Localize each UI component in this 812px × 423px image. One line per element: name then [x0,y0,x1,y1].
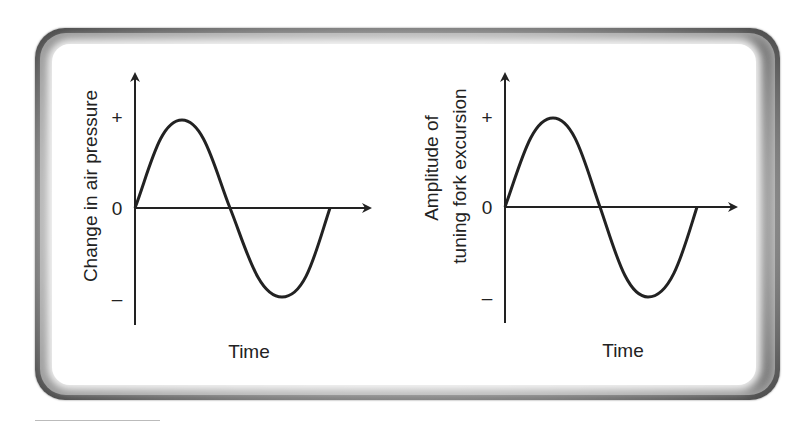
y-axis-label-line-2: tuning fork excursion [449,88,470,263]
y-tick-minus: – [112,288,123,309]
y-tick-minus: – [482,287,493,308]
panel-air-pressure: + 0 – Change in air pressure Time [80,74,370,362]
panel-tuning-fork: + 0 – Amplitude of tuning fork excursion… [421,74,736,361]
y-axis-label: Change in air pressure [80,90,101,282]
y-tick-zero: 0 [112,198,123,219]
x-axis-label: Time [228,341,270,362]
x-axis-label: Time [602,340,644,361]
y-tick-plus: + [481,107,492,128]
y-tick-zero: 0 [482,197,493,218]
figure-canvas: + 0 – Change in air pressure Time + 0 – … [0,0,812,423]
y-axis-label-line-1: Amplitude of [421,114,442,220]
footnote-rule [35,420,160,421]
y-tick-plus: + [111,107,122,128]
